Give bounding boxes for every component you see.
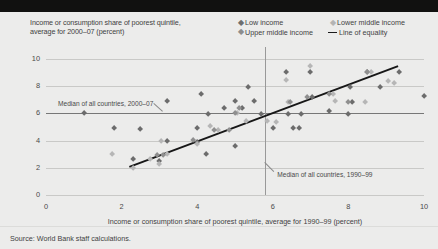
y-axis-tick-label: 2 [24,163,40,172]
x-axis-tick-label: 2 [113,202,131,211]
scatter-point [283,69,290,76]
diamond-icon [190,137,196,143]
scatter-point [258,111,265,118]
diamond-icon [130,165,136,171]
scatter-point [232,143,239,150]
y-gridline [46,59,424,60]
diamond-icon [111,125,117,131]
y-axis-tick-label: 10 [24,54,40,63]
y-gridline [46,168,424,169]
diamond-icon [164,138,170,144]
diamond-icon [232,98,238,104]
scatter-point [264,118,271,125]
legend-label-line-of-equality: Line of equality [339,28,387,37]
legend-item-line-of-equality: Line of equality [328,28,387,37]
diamond-icon: ◆ [236,19,245,27]
diamond-icon [421,93,427,99]
scatter-point [364,69,371,76]
legend-label-low-income: Low income [245,18,283,27]
chart-y-axis-title: Income or consumption share of poorest q… [30,18,245,36]
scatter-point [109,151,116,158]
scatter-point [284,111,291,118]
legend-label-lower-middle-income: Lower middle income [337,18,405,27]
x-axis-tick-label: 6 [264,202,282,211]
diamond-icon [232,143,238,149]
scatter-point [146,155,153,162]
scatter-point [129,164,136,171]
annotation-leader-line [153,103,163,112]
line-icon [328,32,337,33]
scatter-point [273,119,280,126]
diamond-icon [160,152,166,158]
diamond-icon [298,111,304,117]
scatter-point [396,69,403,76]
diamond-icon [283,77,289,83]
diamond-icon [283,70,289,76]
x-axis-tick-label: 8 [339,202,357,211]
diamond-icon [308,70,314,76]
diamond-icon [377,84,383,90]
diamond-icon [362,99,368,105]
diamond-icon [332,98,338,104]
diamond-icon [109,151,115,157]
x-axis-tick-label: 0 [37,202,55,211]
diamond-icon [205,111,211,117]
scatter-point [190,136,197,143]
diamond-icon [258,111,264,117]
scatter-point [197,91,204,98]
scatter-point [362,98,369,105]
scatter-point [296,124,303,131]
scatter-point [205,111,212,118]
scatter-point [307,62,314,69]
diamond-icon [194,125,200,131]
chart-y-axis-title-line2: average for 2000–07 (percent) [30,27,245,36]
diamond-icon [296,125,302,131]
source-note: Source: World Bank staff calculations. [10,234,131,243]
legend-item-low-income: ◆ Low income [236,18,328,27]
scatter-point [269,125,276,132]
y-axis-tick-label: 6 [24,108,40,117]
scatter-point [307,69,314,76]
source-divider [0,226,438,227]
scatter-point [220,104,227,111]
scatter-point [158,138,165,145]
diamond-icon [204,151,210,157]
diamond-icon [251,98,257,104]
diamond-icon [81,110,87,116]
diamond-icon: ◆ [236,28,245,36]
scatter-point [245,83,252,90]
scatter-point [298,111,305,118]
y-axis-tick-label: 4 [24,136,40,145]
diamond-icon [309,94,315,100]
scatter-point [235,104,242,111]
diamond-icon [164,98,170,104]
annotation-median-1990-99: Median of all countries, 1990–99 [277,171,372,178]
diamond-icon [287,99,293,105]
diamond-icon [156,161,162,167]
scatter-point [226,127,233,134]
scatter-point [129,155,136,162]
scatter-point [345,111,352,118]
scatter-point [326,90,333,97]
scatter-point [283,77,290,84]
chart-y-axis-title-line1: Income or consumption share of poorest q… [30,18,245,27]
figure-root: Income or consumption share of poorest q… [0,0,438,249]
legend-row-2: ◆ Upper middle income Line of equality [236,28,434,38]
diamond-icon [236,105,242,111]
chart-legend: ◆ Low income ◆ Lower middle income ◆ Upp… [236,18,434,37]
chart-figure: Income or consumption share of poorest q… [0,12,438,249]
scatter-point [250,98,257,105]
diamond-icon [326,91,332,97]
diamond-icon [147,156,153,162]
scatter-point [80,110,87,117]
scatter-point [211,126,218,133]
diamond-icon [345,111,351,117]
x-axis-tick-label: 4 [188,202,206,211]
diamond-icon [130,156,136,162]
y-axis-tick-label: 0 [24,190,40,199]
scatter-point [390,79,397,86]
diamond-icon [391,80,397,86]
diamond-icon [245,84,251,90]
scatter-point [421,92,428,99]
diamond-icon [137,126,143,132]
